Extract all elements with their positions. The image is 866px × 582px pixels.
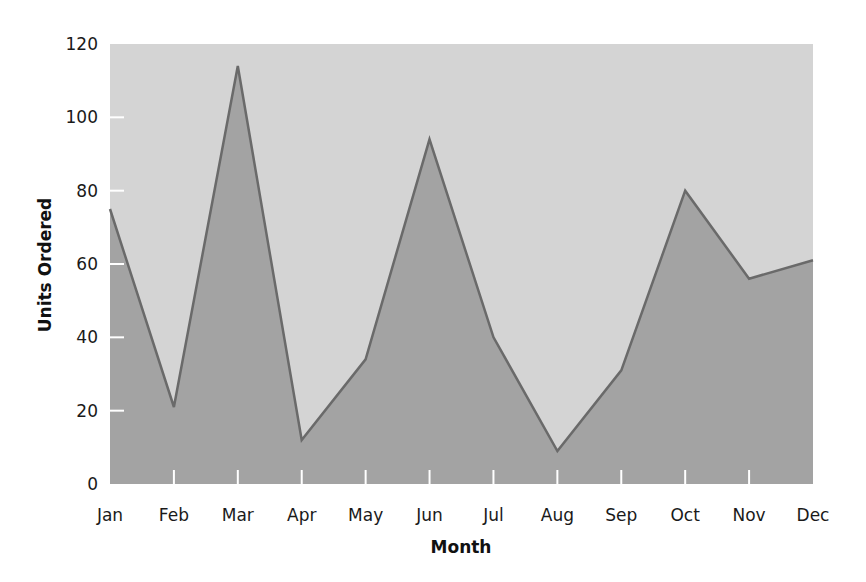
x-tick-label-feb: Feb (159, 505, 189, 525)
x-tick-label-aug: Aug (541, 505, 574, 525)
y-axis-title: Units Ordered (35, 198, 55, 333)
x-tick-label-sep: Sep (605, 505, 637, 525)
area-chart: 020406080100120 JanFebMarAprMayJunJulAug… (0, 0, 866, 582)
y-tick-label: 120 (66, 34, 98, 54)
x-tick-label-may: May (348, 505, 383, 525)
y-tick-label: 20 (76, 401, 98, 421)
y-axis-tick-labels: 020406080100120 (66, 34, 98, 494)
x-tick-label-oct: Oct (670, 505, 700, 525)
y-tick-label: 60 (76, 254, 98, 274)
x-axis-title: Month (431, 537, 492, 557)
y-tick-label: 0 (87, 474, 98, 494)
x-tick-label-jun: Jun (415, 505, 443, 525)
y-tick-label: 100 (66, 107, 98, 127)
x-tick-label-dec: Dec (797, 505, 830, 525)
x-axis-tick-labels: JanFebMarAprMayJunJulAugSepOctNovDec (96, 505, 830, 525)
y-tick-label: 80 (76, 181, 98, 201)
x-tick-label-mar: Mar (222, 505, 254, 525)
x-tick-label-jan: Jan (96, 505, 123, 525)
x-tick-label-apr: Apr (287, 505, 316, 525)
x-tick-label-nov: Nov (732, 505, 765, 525)
y-tick-label: 40 (76, 327, 98, 347)
x-tick-label-jul: Jul (482, 505, 504, 525)
